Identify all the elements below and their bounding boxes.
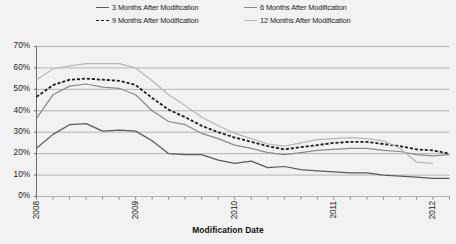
x-tick-label: 2010 <box>231 201 239 219</box>
x-tick-label: 2008 <box>33 201 41 219</box>
line-chart: 3 Months After Modification 6 Months Aft… <box>0 0 456 244</box>
y-tick-label: 10% <box>0 171 30 179</box>
y-tick-label: 60% <box>0 64 30 72</box>
x-tick-label: 2012 <box>429 201 437 219</box>
x-tick-label: 2011 <box>330 201 338 219</box>
y-tick-label: 30% <box>0 128 30 136</box>
y-tick-label: 20% <box>0 149 30 157</box>
series-line-4 <box>37 64 433 164</box>
y-tick-label: 40% <box>0 107 30 115</box>
plot-area <box>0 0 456 244</box>
x-axis-title: Modification Date <box>0 225 456 235</box>
y-tick-label: 70% <box>0 42 30 50</box>
x-tick-label: 2009 <box>132 201 140 219</box>
y-tick-label: 50% <box>0 85 30 93</box>
y-tick-label: 0% <box>0 192 30 200</box>
